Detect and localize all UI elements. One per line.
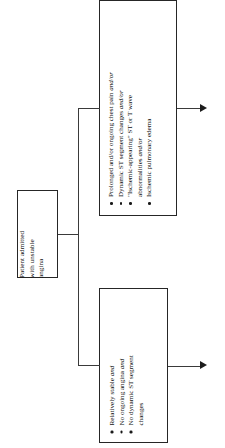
list-item: Dynamic ST segment changes and/or <box>117 6 127 206</box>
low-risk-item-0-emphasis: and <box>107 365 115 376</box>
high-risk-item-2-continuation: abnormalities and/or <box>136 6 146 197</box>
node-low-risk-rotated-text: Relatively stable and No ongoing angina … <box>99 288 168 443</box>
high-risk-item-2-text: "Ischemic-appearing" ST or T wave <box>126 95 134 197</box>
list-item: No ongoing angina and <box>117 292 127 434</box>
low-risk-item-2-text: No dynamic ST segment <box>126 355 134 425</box>
start-line-1: Patient admitted <box>17 190 27 278</box>
node-patient-admitted[interactable]: Patient admitted with unstable angina <box>17 190 58 278</box>
node-patient-admitted-text: Patient admitted with unstable angina <box>17 190 46 278</box>
bullet-icon <box>120 430 123 433</box>
low-risk-bullet-list: Relatively stable and No ongoing angina … <box>107 292 145 434</box>
node-patient-admitted-rotated-text: Patient admitted with unstable angina <box>17 190 58 278</box>
arrow-to-high-risk-pathway-line <box>177 108 201 109</box>
bullet-icon <box>129 430 132 433</box>
bullet-icon <box>129 202 132 205</box>
list-item: No dynamic ST segment changes <box>126 292 145 434</box>
high-risk-item-3-text: Ischemic pulmonary edema <box>145 119 153 197</box>
connector-start-to-branch <box>58 234 79 235</box>
list-item: Prolonged and/or ongoing chest pain and/… <box>107 6 117 206</box>
bullet-icon <box>148 202 151 205</box>
arrow-to-low-risk-pathway-line <box>168 366 201 367</box>
flowchart-canvas: Patient admitted with unstable angina Pr… <box>0 0 225 448</box>
connector-branch-spine <box>78 108 79 366</box>
arrow-to-low-risk-pathway-head-icon <box>200 361 207 369</box>
low-risk-item-2-continuation: changes <box>136 292 146 425</box>
bullet-icon <box>110 430 113 433</box>
high-risk-item-2-cont-emphasis: and/or <box>136 138 144 157</box>
node-high-risk-rotated-text: Prolonged and/or ongoing chest pain and/… <box>99 0 177 216</box>
high-risk-item-2-cont-text: abnormalities <box>136 157 144 197</box>
list-item: Relatively stable and <box>107 292 117 434</box>
high-risk-item-1-text: Dynamic ST segment changes <box>117 109 125 197</box>
arrow-to-high-risk-pathway-head-icon <box>200 104 207 112</box>
low-risk-item-1-text: No ongoing angina <box>117 369 125 425</box>
connector-branch-to-high-risk <box>78 108 100 109</box>
start-line-2: with unstable <box>27 190 37 278</box>
low-risk-item-1-emphasis: and <box>117 358 125 369</box>
high-risk-item-0-emphasis: and/or <box>107 72 115 91</box>
node-high-risk-criteria[interactable]: Prolonged and/or ongoing chest pain and/… <box>99 0 177 216</box>
low-risk-item-0-text: Relatively stable <box>107 376 115 425</box>
high-risk-item-0-text: Prolonged and/or ongoing chest pain <box>107 91 115 197</box>
bullet-icon <box>110 202 113 205</box>
start-line-3: angina <box>36 190 46 278</box>
bullet-icon <box>120 202 123 205</box>
connector-branch-to-low-risk <box>78 365 100 366</box>
list-item: Ischemic pulmonary edema <box>145 6 155 206</box>
list-item: "Ischemic-appearing" ST or T wave abnorm… <box>126 6 145 206</box>
high-risk-item-1-emphasis: and/or <box>117 90 125 109</box>
node-low-risk-criteria[interactable]: Relatively stable and No ongoing angina … <box>99 288 168 443</box>
high-risk-bullet-list: Prolonged and/or ongoing chest pain and/… <box>107 6 155 206</box>
